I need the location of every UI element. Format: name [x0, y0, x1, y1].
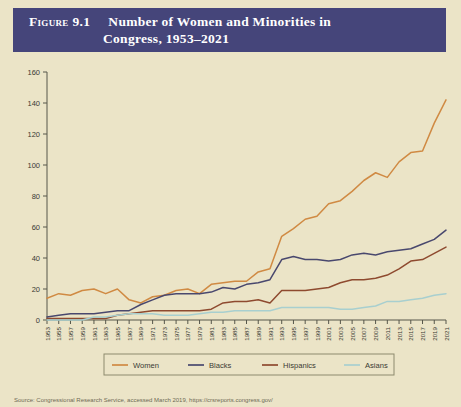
figure-label: Figure — [29, 14, 69, 29]
x-tick-label: 2017 — [419, 326, 426, 340]
figure-title-text-1: Number of Women and Minorities in — [108, 14, 331, 29]
x-tick-label: 1971 — [149, 326, 156, 340]
x-tick-label: 1979 — [196, 326, 203, 340]
chart-area: 020406080100120140160 195319551957195919… — [0, 54, 461, 384]
x-tick-label: 1999 — [314, 326, 321, 340]
x-axis-ticks: 1953195519571959196119631965196719691971… — [44, 320, 450, 341]
x-tick-label: 2021 — [443, 326, 450, 340]
legend-label-asians: Asians — [365, 361, 388, 370]
x-tick-label: 1959 — [79, 326, 86, 340]
legend-entries: WomenBlacksHispanicsAsians — [112, 361, 388, 370]
x-tick-label: 1987 — [243, 326, 250, 340]
x-tick-label: 1967 — [126, 326, 133, 340]
y-tick-label: 60 — [32, 223, 40, 232]
x-tick-label: 1973 — [161, 326, 168, 340]
x-tick-label: 1983 — [220, 326, 227, 340]
y-tick-label: 140 — [27, 99, 40, 108]
y-tick-label: 20 — [32, 285, 40, 294]
y-tick-label: 80 — [32, 192, 40, 201]
x-tick-label: 1981 — [208, 326, 215, 340]
x-tick-label: 2005 — [349, 326, 356, 340]
x-tick-label: 1977 — [184, 326, 191, 340]
legend-label-women: Women — [133, 361, 159, 370]
x-tick-label: 2003 — [337, 326, 344, 340]
legend-label-hispanics: Hispanics — [283, 361, 316, 370]
series-line-asians — [47, 294, 446, 320]
x-tick-label: 2019 — [431, 326, 438, 340]
series-line-hispanics — [47, 247, 446, 318]
x-tick-label: 2013 — [396, 326, 403, 340]
data-series-group — [47, 100, 446, 320]
figure-container: Figure9.1Number of Women and Minorities … — [0, 0, 461, 407]
x-tick-label: 1963 — [102, 326, 109, 340]
x-tick-label: 1993 — [278, 326, 285, 340]
x-tick-label: 2009 — [372, 326, 379, 340]
source-note: Source: Congressional Research Service, … — [14, 396, 461, 404]
x-tick-label: 1989 — [255, 326, 262, 340]
x-tick-label: 1955 — [55, 326, 62, 340]
y-tick-label: 0 — [36, 316, 40, 325]
y-tick-label: 160 — [27, 68, 40, 77]
x-tick-label: 1957 — [67, 326, 74, 340]
legend-label-blacks: Blacks — [209, 361, 232, 370]
y-tick-label: 40 — [32, 254, 40, 263]
x-tick-label: 1997 — [302, 326, 309, 340]
figure-title-line-1: Figure9.1Number of Women and Minorities … — [29, 13, 446, 30]
x-tick-label: 1953 — [44, 326, 51, 340]
figure-number: 9.1 — [73, 14, 91, 29]
y-tick-label: 120 — [27, 130, 40, 139]
series-line-women — [47, 100, 446, 303]
x-tick-label: 2001 — [325, 326, 332, 340]
figure-title-line-2: Congress, 1953–2021 — [29, 30, 446, 47]
line-chart: 020406080100120140160 195319551957195919… — [0, 54, 461, 384]
y-tick-label: 100 — [27, 161, 40, 170]
x-tick-label: 2011 — [384, 326, 391, 340]
figure-banner: Figure9.1Number of Women and Minorities … — [13, 8, 446, 52]
x-tick-label: 2015 — [407, 326, 414, 340]
x-tick-label: 1965 — [114, 326, 121, 340]
x-tick-label: 1991 — [267, 326, 274, 340]
y-axis-ticks: 020406080100120140160 — [27, 68, 47, 325]
x-tick-label: 2007 — [360, 326, 367, 340]
x-tick-label: 1961 — [91, 326, 98, 340]
x-tick-label: 1985 — [231, 326, 238, 340]
x-tick-label: 1969 — [137, 326, 144, 340]
x-tick-label: 1995 — [290, 326, 297, 340]
series-line-blacks — [47, 230, 446, 317]
x-tick-label: 1975 — [173, 326, 180, 340]
